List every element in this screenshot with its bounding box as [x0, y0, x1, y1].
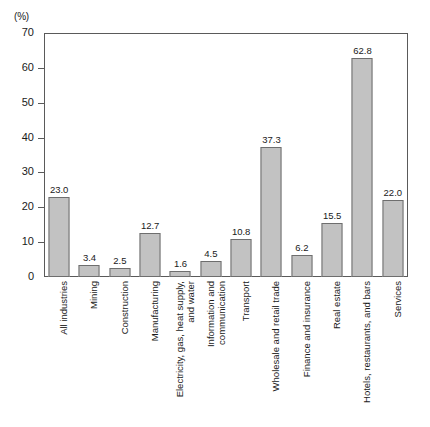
x-axis-category-label: Services — [393, 281, 404, 317]
x-axis-category-labels: All industriesMiningConstructionManufact… — [44, 281, 408, 427]
x-axis-label-line: Hotels, restaurants, and bars — [362, 281, 373, 403]
bar-rect — [261, 147, 282, 277]
bar-rect — [140, 233, 161, 277]
x-axis-label-line: Wholesale and retail trade — [271, 281, 282, 391]
bar-rect — [79, 265, 100, 277]
bar-value-label: 1.6 — [174, 259, 187, 269]
bar-value-label: 62.8 — [353, 46, 372, 56]
bar-rect — [200, 261, 221, 277]
x-axis-label-slot: All industries — [44, 281, 74, 427]
x-axis-category-label: Finance and insurance — [302, 281, 313, 377]
bar-rect — [170, 271, 191, 277]
bar-item: 2.5 — [105, 33, 135, 277]
bar-value-label: 22.0 — [384, 188, 403, 198]
y-axis-tick-label: 40 — [8, 132, 34, 143]
x-axis-label-line: Mining — [89, 281, 100, 309]
y-axis-tick-label: 20 — [8, 201, 34, 212]
x-axis-label-line: Real estate — [332, 281, 343, 329]
bar-chart: (%) 010203040506070 23.03.42.512.71.64.5… — [0, 0, 430, 427]
bar-rect — [382, 200, 403, 277]
y-axis-tick-label: 60 — [8, 62, 34, 73]
bar-item: 4.5 — [196, 33, 226, 277]
x-axis-label-slot: Finance and insurance — [287, 281, 317, 427]
x-axis-category-label: Transport — [241, 281, 252, 321]
x-axis-label-slot: Electricity, gas, heat supply,and water — [165, 281, 195, 427]
x-axis-category-label: Manufacturing — [150, 281, 161, 341]
x-axis-label-slot: Wholesale and retail trade — [256, 281, 286, 427]
y-axis-tick-label: 0 — [8, 271, 34, 282]
bar-item: 62.8 — [347, 33, 377, 277]
y-axis-tick-label: 30 — [8, 166, 34, 177]
bar-item: 6.2 — [287, 33, 317, 277]
x-axis-label-line: Finance and insurance — [302, 281, 313, 377]
y-axis-unit-label: (%) — [14, 11, 29, 22]
bar-rect — [231, 239, 252, 277]
x-axis-label-line: and water — [186, 281, 197, 397]
x-axis-label-line: Information and — [206, 281, 217, 347]
y-axis-tick-label: 70 — [8, 27, 34, 38]
bar-rect — [49, 197, 70, 277]
bar-value-label: 4.5 — [204, 249, 217, 259]
x-axis-label-line: Services — [393, 281, 404, 317]
x-axis-label-slot: Real estate — [317, 281, 347, 427]
bar-value-label: 2.5 — [113, 256, 126, 266]
x-axis-label-slot: Hotels, restaurants, and bars — [347, 281, 377, 427]
bar-value-label: 12.7 — [141, 221, 160, 231]
bar-item: 23.0 — [44, 33, 74, 277]
bar-value-label: 15.5 — [323, 211, 342, 221]
x-axis-label-line: All industries — [59, 281, 70, 335]
bar-rect — [291, 255, 312, 277]
bar-value-label: 3.4 — [83, 253, 96, 263]
bar-item: 22.0 — [378, 33, 408, 277]
bar-rect — [109, 268, 130, 277]
x-axis-label-slot: Transport — [226, 281, 256, 427]
x-axis-category-label: Hotels, restaurants, and bars — [362, 281, 373, 403]
bar-rect — [352, 58, 373, 277]
bar-item: 10.8 — [226, 33, 256, 277]
x-axis-label-slot: Information andcommunication — [196, 281, 226, 427]
bar-item: 3.4 — [74, 33, 104, 277]
x-axis-label-slot: Services — [378, 281, 408, 427]
bar-series: 23.03.42.512.71.64.510.837.36.215.562.82… — [44, 33, 408, 277]
bar-item: 15.5 — [317, 33, 347, 277]
bar-value-label: 10.8 — [232, 227, 251, 237]
bar-rect — [322, 223, 343, 277]
x-axis-label-line: Transport — [241, 281, 252, 321]
x-axis-label-slot: Manufacturing — [135, 281, 165, 427]
y-axis-tick-label: 10 — [8, 236, 34, 247]
bar-value-label: 23.0 — [50, 185, 69, 195]
x-axis-label-line: communication — [216, 281, 227, 347]
x-axis-category-label: Construction — [120, 281, 131, 334]
x-axis-label-slot: Construction — [105, 281, 135, 427]
bar-item: 1.6 — [165, 33, 195, 277]
bar-value-label: 37.3 — [262, 135, 281, 145]
bar-item: 12.7 — [135, 33, 165, 277]
bar-item: 37.3 — [256, 33, 286, 277]
x-axis-label-slot: Mining — [74, 281, 104, 427]
bar-value-label: 6.2 — [295, 243, 308, 253]
x-axis-category-label: Information andcommunication — [206, 281, 227, 347]
x-axis-category-label: Wholesale and retail trade — [271, 281, 282, 391]
x-axis-category-label: Real estate — [332, 281, 343, 329]
x-axis-category-label: Mining — [89, 281, 100, 309]
x-axis-label-line: Construction — [120, 281, 131, 334]
y-axis-tick-label: 50 — [8, 97, 34, 108]
x-axis-category-label: Electricity, gas, heat supply,and water — [175, 281, 196, 397]
x-axis-category-label: All industries — [59, 281, 70, 335]
x-axis-label-line: Manufacturing — [150, 281, 161, 341]
